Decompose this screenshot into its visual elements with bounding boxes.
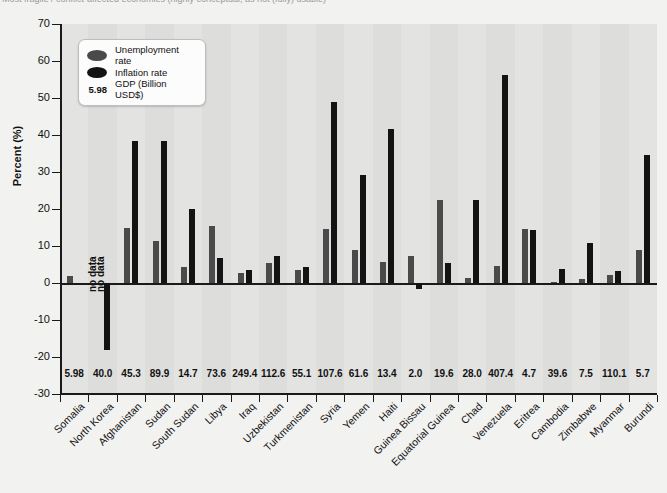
zero-line [60,283,657,285]
gdp-value: 39.6 [548,368,567,379]
y-axis-tick [52,209,60,210]
gdp-value: 61.6 [349,368,368,379]
legend-item-unemployment: Unemployment rate [87,47,197,63]
no-data-label: no data [95,256,106,292]
bar-unemployment [551,282,557,283]
bar-inflation [644,155,650,283]
background-band [600,24,628,394]
y-axis-tick [52,246,60,247]
bar-inflation [132,141,138,283]
bar-inflation [502,75,508,283]
bar-inflation [189,209,195,283]
gdp-value: 19.6 [434,368,453,379]
y-axis-tick [52,98,60,99]
bar-inflation [416,283,422,289]
inflation-swatch-icon [87,67,107,78]
legend-item-gdp: 5.98 GDP (Billion USD$) [87,81,197,97]
bar-inflation [104,283,110,350]
gdp-value: 107.6 [318,368,343,379]
gdp-value: 13.4 [377,368,396,379]
x-axis-tick [572,395,573,402]
bar-unemployment [522,229,528,283]
bar-inflation [161,141,167,283]
y-axis-tick [52,320,60,321]
y-axis-title: Percent (%) [11,111,23,201]
background-band [430,24,458,394]
bar-unemployment [579,279,585,283]
gdp-value: 110.1 [602,368,626,379]
x-axis-tick [629,395,630,402]
y-axis-tick-label: 10 [8,239,50,251]
y-axis-tick [52,357,60,358]
gdp-value: 45.3 [121,368,140,379]
bar-inflation [303,267,309,283]
gdp-value: 28.0 [462,368,481,379]
gdp-value: 407.4 [488,368,513,379]
y-axis-tick [52,283,60,284]
y-axis-tick [52,135,60,136]
x-axis-tick [401,395,402,402]
legend-label-inflation: Inflation rate [115,67,167,78]
y-axis-tick [52,24,60,25]
bar-inflation [559,269,565,283]
bar-unemployment [124,228,130,283]
background-band [316,24,344,394]
y-axis-tick-label: -10 [8,313,50,325]
gdp-value: 7.5 [579,368,593,379]
x-axis-tick [543,395,544,402]
x-axis-line [60,393,657,395]
bar-inflation [445,263,451,283]
bar-inflation [615,271,621,283]
legend-label-gdp: GDP (Billion USD$) [115,78,197,100]
y-axis-labels: 706050403020100-10-20-30 [0,0,50,493]
bar-unemployment [323,229,329,283]
bar-unemployment [636,250,642,283]
gdp-value: 14.7 [178,368,197,379]
bar-unemployment [437,200,443,283]
bar-inflation [473,200,479,283]
bar-inflation [530,230,536,283]
gdp-value: 2.0 [408,368,422,379]
gdp-value: 89.9 [150,368,169,379]
bar-inflation [360,175,366,283]
legend-label-unemployment: Unemployment rate [115,44,197,66]
x-axis-tick [344,395,345,402]
y-axis-line [60,24,62,394]
bar-inflation [388,129,394,283]
bar-unemployment [266,263,272,283]
y-axis-tick [52,394,60,395]
bar-unemployment [67,276,73,283]
x-axis-tick [231,395,232,402]
bar-inflation [587,243,593,283]
bar-unemployment [607,275,613,283]
bar-unemployment [494,266,500,283]
bar-unemployment [465,278,471,283]
gdp-value: 5.7 [636,368,650,379]
bar-inflation [331,102,337,283]
bar-inflation [274,256,280,283]
bar-unemployment [238,273,244,283]
x-axis-tick [287,395,288,402]
bar-inflation [246,270,252,283]
y-axis-tick-label: -30 [8,387,50,399]
bar-unemployment [352,250,358,283]
background-band [202,24,230,394]
x-axis-tick [657,395,658,402]
y-axis-tick [52,61,60,62]
x-axis-tick [458,395,459,402]
bar-unemployment [209,226,215,283]
y-axis-tick-label: 50 [8,91,50,103]
gdp-value: 73.6 [207,368,226,379]
x-axis-tick [88,395,89,402]
background-band [543,24,571,394]
gdp-value: 55.1 [292,368,311,379]
gdp-value: 4.7 [522,368,536,379]
background-band [373,24,401,394]
x-axis-tick [202,395,203,402]
bar-chart: Most fragile / conflict-affected economi… [0,0,667,493]
x-axis-tick [430,395,431,402]
bar-unemployment [153,241,159,283]
y-axis-tick-label: 0 [8,276,50,288]
x-axis-tick [145,395,146,402]
x-axis-tick [174,395,175,402]
